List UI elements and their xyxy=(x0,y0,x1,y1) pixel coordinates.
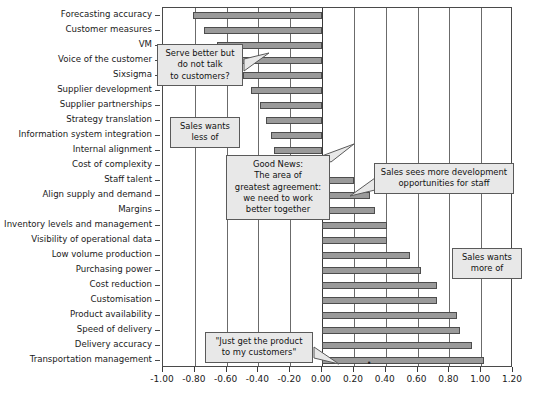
bar xyxy=(322,297,437,304)
callout-line: opportunities for staff xyxy=(379,178,509,189)
category-label: Visibility of operational data xyxy=(31,235,152,244)
bar xyxy=(322,327,460,334)
category-tick xyxy=(155,285,160,286)
x-tick-label: 0.80 xyxy=(438,374,458,384)
x-tick-label: 1.20 xyxy=(502,374,522,384)
category-label: Supplier development xyxy=(57,85,152,94)
bar xyxy=(322,282,437,289)
x-tick-label: 0.40 xyxy=(375,374,395,384)
callout-sales-wants-more: Sales wantsmore of xyxy=(452,248,522,279)
callout-line: to customers? xyxy=(162,71,238,82)
x-axis-tick xyxy=(321,367,322,372)
callout-serve-better: Serve better butdo not talkto customers? xyxy=(157,44,243,86)
bar-chart-figure: Forecasting accuracyCustomer measuresVMV… xyxy=(0,0,539,406)
callout-line: do not talk xyxy=(162,59,238,70)
x-axis-tick-labels: -1.00-0.80-0.60-0.40-0.200.000.200.400.6… xyxy=(0,374,539,394)
bar xyxy=(322,267,421,274)
x-axis-tick xyxy=(448,367,449,372)
category-label: Purchasing power xyxy=(76,265,152,274)
category-tick xyxy=(155,30,160,31)
bar xyxy=(322,237,387,244)
x-tick-label: -0.40 xyxy=(246,374,269,384)
category-tick xyxy=(155,165,160,166)
callout-line: Good News: xyxy=(231,159,325,170)
callout-line: Sales sees more development xyxy=(379,167,509,178)
callout-line: "Just get the product xyxy=(210,336,308,347)
x-axis-tick xyxy=(480,367,481,372)
category-tick xyxy=(155,225,160,226)
callout-line: Sales wants xyxy=(457,252,517,263)
category-label: Align supply and demand xyxy=(42,190,152,199)
callout-line: Serve better but xyxy=(162,48,238,59)
bar xyxy=(260,102,322,109)
callout-pointer-sales-development xyxy=(349,177,376,197)
callout-pointer-serve-better xyxy=(243,52,270,72)
category-tick xyxy=(155,270,160,271)
category-tick xyxy=(155,210,160,211)
category-tick xyxy=(155,150,160,151)
category-label: Cost of complexity xyxy=(72,160,152,169)
x-tick-label: -1.00 xyxy=(150,374,173,384)
x-axis-tick xyxy=(512,367,513,372)
category-label: Inventory levels and management xyxy=(4,220,152,229)
bar xyxy=(322,357,484,364)
callout-just-get-product: "Just get the productto my customers" xyxy=(205,332,313,363)
x-axis-tick xyxy=(353,367,354,372)
x-axis-tick xyxy=(162,367,163,372)
callout-line: more of xyxy=(457,263,517,274)
x-tick-label: -0.80 xyxy=(182,374,205,384)
category-label: Cost reduction xyxy=(89,280,152,289)
category-tick xyxy=(155,330,160,331)
category-tick xyxy=(155,255,160,256)
x-axis-tick xyxy=(257,367,258,372)
category-tick xyxy=(155,240,160,241)
category-tick xyxy=(155,105,160,106)
bar xyxy=(322,252,410,259)
category-label: Sixsigma xyxy=(113,70,152,79)
category-tick xyxy=(155,15,160,16)
category-label: Margins xyxy=(118,205,152,214)
category-label: Low volume production xyxy=(52,250,152,259)
callout-line: Sales wants xyxy=(175,121,235,132)
x-axis-tick xyxy=(226,367,227,372)
bar xyxy=(251,87,323,94)
category-label: Delivery accuracy xyxy=(75,340,152,349)
category-label: Voice of the customer xyxy=(58,55,152,64)
callout-line: The area of xyxy=(231,170,325,181)
x-tick-label: 0.20 xyxy=(343,374,363,384)
callout-good-news: Good News:The area ofgreatest agreement:… xyxy=(226,155,330,220)
category-axis-labels: Forecasting accuracyCustomer measuresVMV… xyxy=(0,0,158,366)
x-tick-label: -0.60 xyxy=(214,374,237,384)
category-tick xyxy=(155,315,160,316)
category-label: Staff talent xyxy=(104,175,152,184)
category-tick xyxy=(155,360,160,361)
callout-line: greatest agreement: xyxy=(231,182,325,193)
callout-line: better together xyxy=(231,204,325,215)
stray-marker-icon: • xyxy=(367,359,372,368)
callout-sales-wants-less: Sales wantsless of xyxy=(170,117,240,148)
callout-sales-development: Sales sees more developmentopportunities… xyxy=(374,163,514,194)
category-label: Customer measures xyxy=(66,25,152,34)
x-axis-tick xyxy=(385,367,386,372)
category-label: Transportation management xyxy=(30,355,152,364)
x-axis-tick xyxy=(289,367,290,372)
category-label: Strategy translation xyxy=(66,115,152,124)
category-label: Internal alignment xyxy=(73,145,152,154)
bar xyxy=(322,222,387,229)
callout-line: to my customers" xyxy=(210,347,308,358)
bar xyxy=(271,132,322,139)
category-tick xyxy=(155,120,160,121)
x-tick-label: 0.60 xyxy=(407,374,427,384)
bar xyxy=(193,12,322,19)
callout-line: we need to work xyxy=(231,193,325,204)
bar xyxy=(266,117,322,124)
category-tick xyxy=(155,90,160,91)
callout-line: less of xyxy=(175,132,235,143)
bar xyxy=(204,27,322,34)
category-label: Speed of delivery xyxy=(77,325,152,334)
x-tick-label: 1.00 xyxy=(470,374,490,384)
callout-pointer-just-get-product xyxy=(313,346,340,365)
x-axis-tick xyxy=(194,367,195,372)
bar xyxy=(322,342,472,349)
x-tick-label: -0.20 xyxy=(278,374,301,384)
